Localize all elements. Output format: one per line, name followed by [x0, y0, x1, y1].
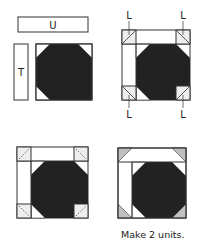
l-label-top-left: L [126, 10, 132, 21]
t-label: T [17, 67, 25, 78]
quilt-diagram: U T [0, 0, 199, 244]
step2-block: L L L L [122, 10, 190, 120]
step3-block [17, 147, 88, 218]
stitch-square-top-right [74, 147, 88, 161]
step1-pieces: U T [14, 17, 92, 100]
u-label: U [49, 20, 56, 31]
l-label-bottom-left: L [126, 109, 132, 120]
l-label-top-right: L [180, 10, 186, 21]
center-square [36, 44, 92, 100]
step4-block [118, 148, 186, 218]
stitch-square-top-left [17, 147, 31, 161]
stitch-square-bottom-left [17, 204, 31, 218]
dark-octagon [132, 162, 186, 218]
stitch-square-bottom-right [74, 204, 88, 218]
l-label-bottom-right: L [180, 109, 186, 120]
make-units-caption: Make 2 units. [121, 229, 185, 240]
dark-octagon [36, 44, 92, 100]
